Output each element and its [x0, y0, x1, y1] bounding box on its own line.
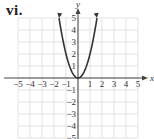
x-axis-arrow-icon: [142, 76, 148, 81]
y-tick-label: −3: [66, 109, 76, 119]
y-tick-label: 3: [72, 37, 77, 47]
y-tick-label: −1: [66, 85, 76, 95]
y-tick-label: −2: [66, 97, 76, 107]
x-tick-label: −3: [37, 79, 47, 89]
x-axis-label: x: [149, 73, 154, 83]
y-tick-label: −5: [66, 133, 76, 139]
x-tick-label: 4: [124, 79, 129, 89]
x-tick-label: −2: [49, 79, 59, 89]
x-tick-label: 3: [112, 79, 117, 89]
curve-arrow-icon: [57, 13, 62, 18]
graph-plot: xy −5−4−3−2−11234554321−1−2−3−4−5: [0, 0, 154, 139]
x-tick-label: 2: [100, 79, 105, 89]
x-tick-label: −5: [13, 79, 23, 89]
axes: xy: [4, 0, 154, 139]
curve-arrow-icon: [94, 13, 99, 18]
y-tick-label: 1: [72, 61, 77, 71]
tick-labels: −5−4−3−2−11234554321−1−2−3−4−5: [13, 13, 141, 139]
y-tick-label: −4: [66, 121, 76, 131]
x-tick-label: −4: [25, 79, 35, 89]
y-tick-label: 2: [72, 49, 77, 59]
y-tick-label: 5: [72, 13, 77, 23]
y-axis-label: y: [75, 0, 80, 9]
y-tick-label: 4: [72, 25, 77, 35]
x-tick-label: 1: [88, 79, 93, 89]
x-tick-label: 5: [136, 79, 141, 89]
